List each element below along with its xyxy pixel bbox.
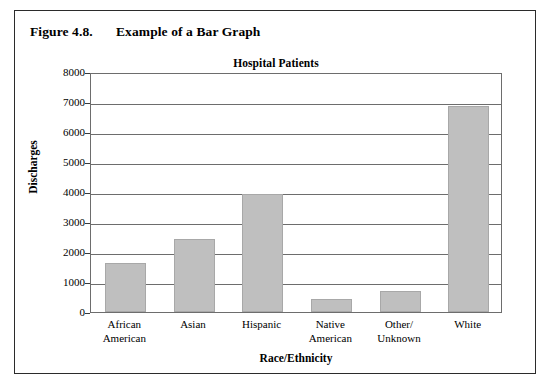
y-tick-mark [85,313,90,314]
x-tick-label-line: American [90,332,159,346]
bars-layer [91,74,501,312]
x-tick-label-line: Hispanic [227,318,296,332]
x-axis-title: Race/Ethnicity [90,352,502,364]
y-tick-label: 7000 [47,97,85,108]
x-tick-label: NativeAmerican [296,318,365,345]
y-axis-tick-labels: 010002000300040005000600070008000 [41,73,85,313]
y-tick-label: 8000 [47,67,85,78]
y-tick-label: 3000 [47,217,85,228]
x-tick-label: Asian [159,318,228,332]
bar [311,299,352,312]
x-tick-label-line: Other/ [365,318,434,332]
plot-area [90,73,502,313]
y-tick-label: 4000 [47,187,85,198]
x-tick-label: Hispanic [227,318,296,332]
bar [174,239,215,313]
x-tick-label: Other/Unknown [365,318,434,345]
x-tick-label-line: African [90,318,159,332]
y-tick-label: 1000 [47,277,85,288]
x-tick-label-line: White [433,318,502,332]
bar-chart: Hospital Patients Discharges 01000200030… [15,11,537,375]
x-tick-label-line: American [296,332,365,346]
y-tick-label: 2000 [47,247,85,258]
x-tick-label: AfricanAmerican [90,318,159,345]
x-tick-label: White [433,318,502,332]
x-tick-label-line: Native [296,318,365,332]
x-tick-label-line: Asian [159,318,228,332]
chart-title: Hospital Patients [15,57,537,69]
y-tick-label: 5000 [47,157,85,168]
x-tick-label-line: Unknown [365,332,434,346]
bar [242,194,283,312]
y-tick-label: 0 [47,307,85,318]
y-tick-label: 6000 [47,127,85,138]
bar [380,291,421,312]
bar [105,263,146,312]
bar [448,106,489,312]
figure-frame: Figure 4.8.Example of a Bar Graph Hospit… [14,10,536,374]
y-axis-title: Discharges [27,117,39,217]
x-axis-tick-labels: AfricanAmericanAsianHispanicNativeAmeric… [90,318,502,352]
